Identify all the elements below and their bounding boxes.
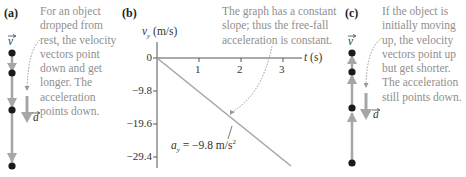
position-dot	[8, 49, 15, 56]
panel-c-caption: If the object is initially moving up, th…	[382, 4, 462, 104]
x-axis-label: t (s)	[304, 51, 322, 63]
acceleration-arrowhead	[21, 112, 33, 123]
panel-c-motion-diagram	[347, 35, 382, 167]
y-tick: 0	[147, 51, 153, 63]
panel-c-label: (c)	[345, 6, 358, 21]
velocity-arrowhead-3	[7, 153, 17, 163]
position-dot	[8, 69, 15, 76]
y-tick: −29.4	[127, 150, 152, 162]
position-dot	[348, 68, 355, 75]
panel-a-motion-diagram	[7, 35, 40, 170]
y-axis-label: vy (m/s)	[142, 25, 177, 40]
caption-pointer	[27, 40, 40, 90]
acceleration-symbol: a	[33, 111, 39, 123]
y-tick: −9.8	[132, 84, 152, 96]
panel-b-caption: The graph has a constant slope; thus the…	[222, 4, 336, 47]
caption-pointer	[366, 38, 382, 84]
acceleration-annotation: ay = −9.8 m/s2	[171, 138, 236, 154]
slope-pointer	[232, 46, 272, 112]
position-dot	[348, 49, 355, 56]
panel-a-caption: For an object dropped from rest, the vel…	[40, 4, 116, 118]
x-tick: 2	[237, 63, 243, 75]
velocity-symbol: v	[348, 35, 353, 47]
position-dot	[348, 104, 355, 111]
position-dot	[348, 159, 355, 166]
x-tick: 3	[279, 63, 285, 75]
position-dot	[8, 162, 15, 169]
velocity-symbol: v	[8, 35, 13, 47]
position-dot	[8, 106, 15, 113]
x-tick: 1	[195, 63, 201, 75]
acceleration-symbol: a	[373, 108, 379, 120]
y-tick: −19.6	[127, 117, 152, 129]
panel-a-label: (a)	[4, 6, 18, 21]
panel-b-label: (b)	[122, 6, 137, 21]
